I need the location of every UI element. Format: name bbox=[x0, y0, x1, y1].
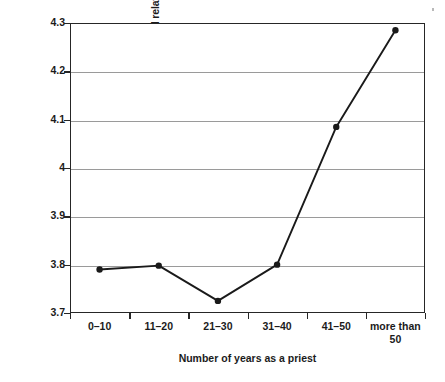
x-axis-tick-label: 11–20 bbox=[129, 320, 188, 333]
x-axis-tick-label: 31–40 bbox=[248, 320, 307, 333]
series-marker-group bbox=[96, 27, 398, 304]
data-point-marker bbox=[156, 262, 162, 268]
data-point-marker bbox=[215, 298, 221, 304]
x-axis-tick-mark bbox=[307, 313, 308, 319]
y-axis-tick-label: 3.7 bbox=[25, 306, 65, 318]
data-point-marker bbox=[333, 124, 339, 130]
data-series-layer bbox=[70, 23, 425, 313]
y-axis-tick-label: 4.1 bbox=[25, 113, 65, 125]
data-point-marker bbox=[96, 266, 102, 272]
y-axis-tick-label: 4.2 bbox=[25, 64, 65, 76]
x-axis-tick-mark bbox=[129, 313, 130, 319]
y-axis-tick-label: 3.8 bbox=[25, 258, 65, 270]
x-axis-tick-mark bbox=[366, 313, 367, 319]
x-axis-tick-mark bbox=[248, 313, 249, 319]
data-point-marker bbox=[274, 261, 280, 267]
x-axis-title: Number of years as a priest bbox=[70, 352, 425, 364]
data-point-marker bbox=[392, 27, 398, 33]
y-axis-tick-label: 4.3 bbox=[25, 16, 65, 28]
x-axis-tick-label: 21–30 bbox=[188, 320, 247, 333]
x-axis-tick-mark bbox=[70, 313, 71, 319]
x-axis-tick-mark bbox=[425, 313, 426, 319]
series-line-mean-rating bbox=[100, 30, 396, 301]
y-axis-tick-label: 4 bbox=[25, 161, 65, 173]
y-axis-tick-label: 3.9 bbox=[25, 209, 65, 221]
x-axis-tick-mark bbox=[188, 313, 189, 319]
line-chart-figure: Mean of "Growing up, I had a good relati… bbox=[0, 0, 445, 382]
x-axis-tick-label: 0–10 bbox=[70, 320, 129, 333]
x-axis-tick-label: more than 50 bbox=[366, 320, 425, 346]
scan-artifact-speck bbox=[432, 8, 434, 11]
x-axis-tick-label: 41–50 bbox=[307, 320, 366, 333]
